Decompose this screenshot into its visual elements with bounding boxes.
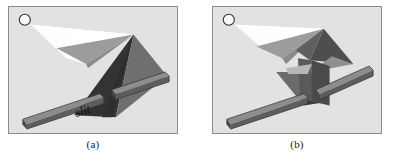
panel-b-frame bbox=[212, 6, 382, 134]
panel-b bbox=[212, 6, 382, 134]
panel-a-diagram: slit bbox=[9, 7, 177, 133]
panel-a: slit bbox=[8, 6, 178, 134]
light-source-circle-a bbox=[19, 14, 30, 25]
slit-bar-left-b bbox=[227, 94, 308, 129]
panel-a-caption: (a) bbox=[8, 138, 178, 150]
panel-a-frame: slit bbox=[8, 6, 178, 134]
panel-b-diagram bbox=[213, 7, 381, 133]
panel-b-caption: (b) bbox=[212, 138, 382, 150]
figure-root: slit (a) bbox=[0, 0, 393, 162]
light-source-circle-b bbox=[223, 14, 234, 25]
